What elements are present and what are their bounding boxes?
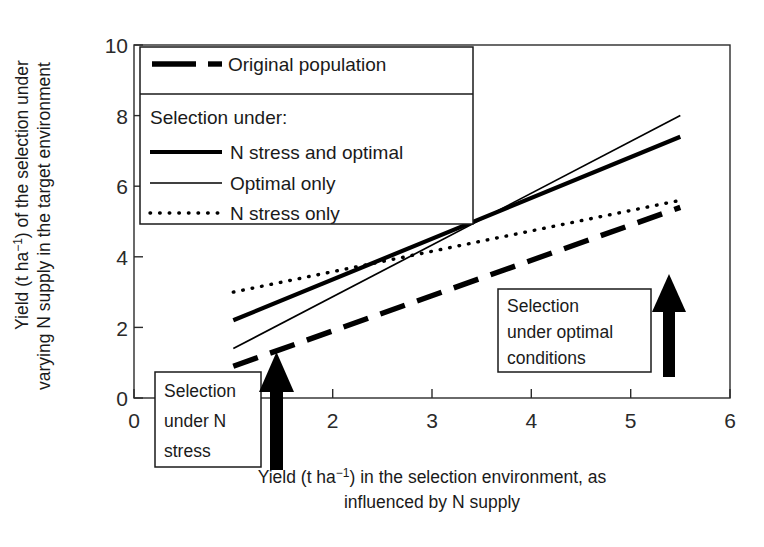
- legend-header: Selection under:: [150, 107, 287, 128]
- y-tick-label-10: 10: [105, 34, 128, 57]
- y-tick-label-0: 0: [116, 387, 128, 410]
- x-axis-title-line-2: influenced by N supply: [344, 492, 520, 512]
- chart-figure: Yield (t ha−1) of the selection under va…: [0, 0, 764, 547]
- x-tick-label-0: 0: [128, 409, 140, 432]
- x-tick-label-5: 5: [625, 409, 637, 432]
- annotation-left-line-2: under N: [164, 411, 226, 431]
- y-tick-label-4: 4: [116, 246, 128, 269]
- annotation-selection-under-n-stress[interactable]: Selection under N stress: [155, 372, 261, 467]
- annotation-right-line-1: Selection: [507, 296, 579, 316]
- annotation-left-line-3: stress: [164, 441, 211, 461]
- x-tick-label-2: 2: [327, 409, 339, 432]
- y-axis-title-line-1: Yield (t ha−1) of the selection under: [11, 60, 32, 330]
- y-axis-title-line-2: varying N supply in the target environme…: [34, 62, 54, 390]
- legend-label-original-population: Original population: [228, 54, 386, 75]
- legend-label-n-stress-only: N stress only: [230, 203, 340, 224]
- legend-label-n-stress-and-optimal: N stress and optimal: [230, 142, 403, 163]
- legend[interactable]: Original population Selection under: N s…: [140, 47, 473, 224]
- legend-label-optimal-only: Optimal only: [230, 173, 336, 194]
- annotation-left-line-1: Selection: [164, 381, 236, 401]
- x-tick-label-6: 6: [724, 409, 736, 432]
- x-tick-label-4: 4: [525, 409, 537, 432]
- annotation-right-line-3: conditions: [507, 348, 586, 368]
- x-tick-label-3: 3: [426, 409, 438, 432]
- y-tick-label-6: 6: [116, 175, 128, 198]
- x-axis-title-line-1: Yield (t ha−1) in the selection environm…: [258, 466, 607, 487]
- annotation-right-line-2: under optimal: [507, 322, 613, 342]
- y-tick-label-8: 8: [116, 105, 128, 128]
- y-tick-label-2: 2: [116, 317, 128, 340]
- annotation-selection-under-optimal-conditions[interactable]: Selection under optimal conditions: [498, 289, 651, 372]
